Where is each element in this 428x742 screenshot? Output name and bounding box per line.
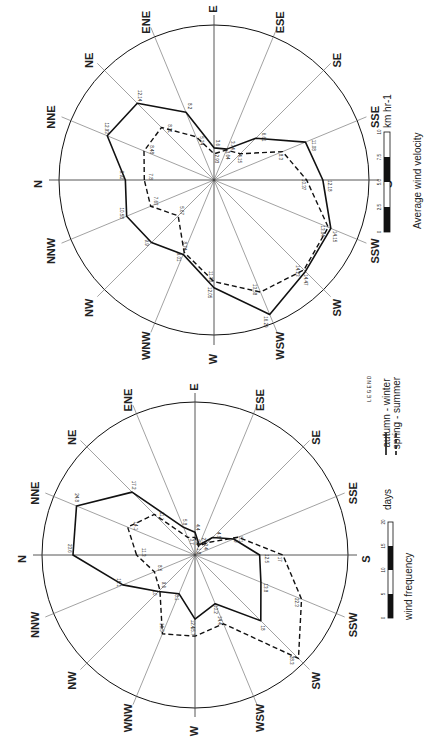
frequency-wind-rose: NNNENEENEEESESESSESSSWSWWSWWWNWNWNNW23.6… <box>16 383 372 736</box>
legend: LEGEND autumn - winter spring - summer <box>367 374 402 455</box>
direction-label-sw: SW <box>331 298 343 316</box>
legend-item-spring-summer: spring - summer <box>391 376 402 449</box>
value-label: 8.74 <box>182 242 187 251</box>
spoke-sw <box>195 555 310 670</box>
spoke-sw <box>214 180 331 297</box>
direction-label-n: N <box>32 180 44 188</box>
value-label: 8.2 <box>187 103 192 110</box>
legend-title: LEGEND <box>367 374 372 402</box>
value-label: 3.4 <box>195 539 200 546</box>
spoke-nw <box>80 555 195 670</box>
spoke-ssw <box>214 180 366 243</box>
value-label: 5.24 <box>199 136 204 145</box>
velocity-unit: km hr-1 <box>382 94 393 128</box>
direction-label-sw: SW <box>310 671 322 689</box>
spoke-ene <box>151 28 214 180</box>
spoke-wsw <box>195 555 257 705</box>
value-label: 9.01 <box>176 253 181 262</box>
direction-label-sse: SSE <box>347 482 359 504</box>
value-label: 11.3 <box>141 548 146 557</box>
frequency-scale-bar: 05101520 <box>381 519 393 619</box>
value-label: 8.5 <box>157 565 162 572</box>
value-label: 5.67 <box>179 206 184 215</box>
direction-label-wnw: WNW <box>122 703 134 732</box>
spoke-ese <box>214 28 277 180</box>
spoke-se <box>214 63 331 180</box>
value-label: 4.8 <box>216 532 221 539</box>
value-label: 15.7 <box>190 627 195 636</box>
value-label: 3.4 <box>203 543 208 550</box>
spoke-sse <box>214 117 366 180</box>
direction-label-se: SE <box>310 430 322 445</box>
value-label: 10.37 <box>301 179 306 191</box>
value-label: 16.5 <box>159 623 164 632</box>
value-label: 7.67 <box>153 197 158 206</box>
value-label: 9 <box>233 540 238 543</box>
direction-label-wsw: WSW <box>274 331 286 360</box>
value-label: 12.5 <box>264 554 269 563</box>
value-label: 12.18 <box>327 180 332 192</box>
value-label: 15.1 <box>116 578 121 587</box>
value-label: 8.1 <box>174 594 179 601</box>
direction-label-wsw: WSW <box>254 703 266 732</box>
spoke-nnw <box>62 180 214 243</box>
frequency-label-text: wind frequency <box>403 553 414 621</box>
value-label: 14.4 <box>217 616 222 625</box>
velocity-scale-label: Average wind velocity <box>412 132 423 229</box>
direction-label-se: SE <box>331 53 343 68</box>
value-label: 3.6 <box>215 140 220 147</box>
direction-label-ese: ESE <box>274 11 286 33</box>
value-label: 12.14 <box>137 90 142 102</box>
direction-label-ne: NE <box>66 430 78 445</box>
spoke-ene <box>133 405 195 555</box>
direction-label-nw: NW <box>66 671 78 690</box>
direction-label-nnw: NNW <box>29 611 41 638</box>
scale-tick: 20 <box>381 519 386 525</box>
value-label: 10 <box>152 590 157 596</box>
spoke-wsw <box>214 180 277 332</box>
scale-tick: 0 <box>377 230 382 233</box>
direction-label-ese: ESE <box>254 389 266 411</box>
value-label: 3.64 <box>225 151 230 160</box>
value-label: 16.29 <box>263 316 268 328</box>
value-label: 3.74 <box>230 141 235 150</box>
scale-tick: 10 <box>381 567 386 573</box>
value-label: 9.9 <box>144 239 149 246</box>
value-label: 6.61 <box>261 133 266 142</box>
series-spring-summer <box>128 514 302 658</box>
spoke-sse <box>195 493 345 555</box>
spoke-wnw <box>151 180 214 332</box>
frequency-unit: days <box>382 489 393 510</box>
value-label: 13.84 <box>320 225 325 237</box>
value-label: 5.8 <box>182 519 187 526</box>
wind-rose-figure: NNNENEENEEESESESSESSSWSWWSWWWNWNWNNW9.92… <box>0 0 428 742</box>
spoke-ne <box>97 63 214 180</box>
direction-label-ssw: SSW <box>347 612 359 638</box>
value-label: 10.58 <box>119 208 124 220</box>
direction-label-wnw: WNW <box>140 331 152 360</box>
value-label: 22.3 <box>294 598 299 607</box>
value-label: 17 <box>277 557 282 563</box>
velocity-wind-rose: NNNENEENEEESESESSESSSWSWWSWWWNWNWNNW9.92… <box>32 5 394 364</box>
value-label: 9.6 <box>161 582 166 589</box>
value-label: 17.2 <box>131 481 136 490</box>
spoke-ne <box>80 440 195 555</box>
spoke-ese <box>195 405 257 555</box>
frequency-scale-label: wind frequency <box>403 553 414 621</box>
value-label: 23.6 <box>67 544 72 553</box>
value-label: 11.38 <box>208 271 213 282</box>
value-label: 4.15 <box>237 154 242 163</box>
direction-label-e: E <box>207 5 219 12</box>
scale-tick: 2.5 <box>377 203 382 210</box>
direction-label-w: W <box>207 353 219 364</box>
direction-label-ene: ENE <box>122 389 134 412</box>
value-label: 12.93 <box>104 122 109 134</box>
scale-tick: 5 <box>381 592 386 595</box>
direction-label-ssw: SSW <box>369 238 381 264</box>
value-label: 14.23 <box>295 265 300 277</box>
value-label: 28.3 <box>289 656 294 665</box>
value-label: 7.8 <box>148 173 153 180</box>
value-label: 8.3 <box>278 154 283 161</box>
value-label: 24.8 <box>74 493 79 502</box>
direction-label-w: W <box>188 725 200 736</box>
